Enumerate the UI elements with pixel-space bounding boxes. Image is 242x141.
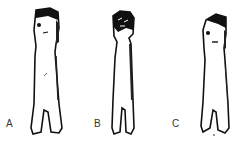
figurine-a bbox=[26, 0, 66, 141]
figurine-b bbox=[108, 0, 142, 141]
figurine-a-drawing bbox=[26, 0, 66, 141]
figure-label-a: A bbox=[6, 118, 13, 129]
figurine-b-drawing bbox=[108, 0, 142, 141]
figure-label-c: C bbox=[172, 118, 179, 129]
figure-label-b: B bbox=[94, 118, 101, 129]
figurine-c-drawing bbox=[198, 0, 234, 141]
figurine-c bbox=[198, 0, 234, 141]
